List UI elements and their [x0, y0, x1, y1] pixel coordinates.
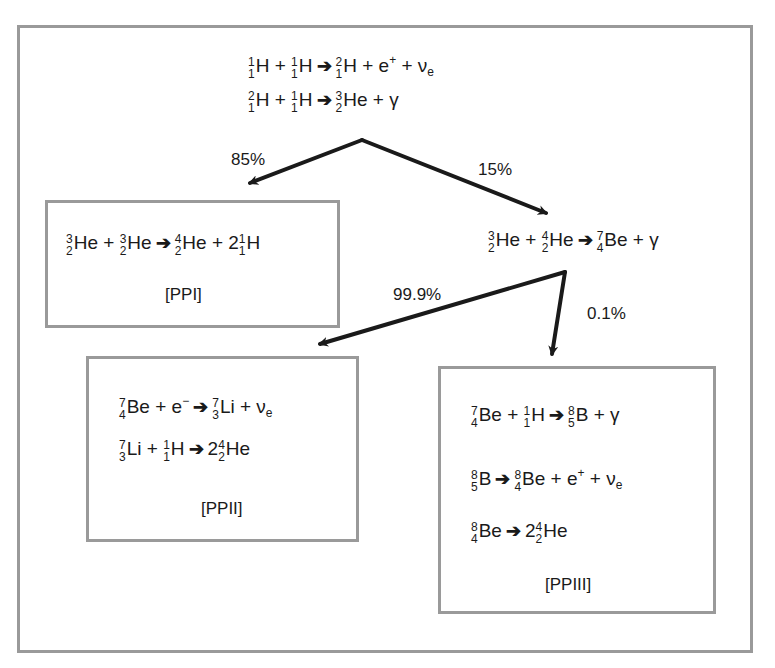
nuclide: 242He	[525, 519, 568, 544]
isotope-numbers: 85	[568, 405, 575, 429]
nuclide: 84Be	[471, 519, 502, 544]
element-symbol: H	[256, 54, 270, 78]
nuclide: 11H	[524, 403, 545, 428]
operator: +	[502, 404, 524, 425]
operator: +	[396, 55, 418, 76]
arrow-to-ppi	[250, 140, 362, 183]
particle: e+	[379, 55, 397, 76]
isotope-numbers: 42	[536, 521, 543, 545]
arrow-to-ppii	[320, 272, 565, 344]
element-symbol: Be	[127, 395, 150, 419]
atomic-number: 2	[66, 245, 73, 257]
nuclide: 11H	[291, 88, 312, 113]
isotope-numbers: 11	[291, 90, 298, 114]
atomic-number: 4	[119, 409, 126, 421]
reaction-arrow-icon: ➔	[506, 519, 521, 543]
ppi-reaction-1: 32He + 32He➔42He + 211H	[66, 231, 260, 256]
operator: +	[269, 89, 291, 110]
nuclide: 74Be	[119, 395, 150, 420]
atomic-number: 2	[120, 245, 127, 257]
operator: +	[98, 232, 120, 253]
coefficient: 2	[525, 520, 536, 541]
nuclide: 74Be	[597, 228, 628, 253]
particle: e+	[567, 468, 585, 489]
ppii-reaction-1: 74Be + e−➔73Li + νe	[119, 389, 273, 425]
charge: +	[578, 466, 585, 480]
ppiii-label: [PPIII]	[545, 575, 591, 595]
operator: +	[141, 438, 163, 459]
isotope-numbers: 84	[514, 469, 521, 493]
reaction-arrow-icon: ➔	[156, 231, 171, 255]
element-symbol: H	[531, 403, 545, 427]
branch-label-0-1: 0.1%	[587, 304, 626, 324]
element-symbol: Li	[127, 437, 142, 461]
element-symbol: H	[299, 54, 313, 78]
reaction-arrow-icon: ➔	[549, 403, 564, 427]
element-symbol: Be	[522, 467, 545, 491]
isotope-numbers: 21	[248, 90, 255, 114]
operator: +	[520, 229, 542, 250]
nuclide: 11H	[291, 54, 312, 79]
isotope-numbers: 84	[471, 521, 478, 545]
ppi-label: [PPI]	[165, 285, 202, 305]
nuclide: 73Li	[119, 437, 141, 462]
nuclide: 211H	[228, 231, 260, 256]
nuclide: 42He	[542, 228, 574, 253]
isotope-numbers: 21	[336, 56, 343, 80]
element-symbol: He	[127, 231, 151, 255]
atomic-number: 4	[471, 417, 478, 429]
particle: νe	[606, 468, 622, 489]
atomic-number: 5	[471, 481, 478, 493]
nuclide: 11H	[248, 54, 269, 79]
isotope-numbers: 11	[248, 56, 255, 80]
isotope-numbers: 32	[488, 230, 495, 254]
nuclide: 85B	[568, 403, 588, 428]
operator: +	[585, 468, 607, 489]
atomic-number: 1	[163, 451, 170, 463]
element-symbol: He	[226, 437, 250, 461]
atomic-number: 4	[597, 242, 604, 254]
nuclide: 21H	[336, 54, 357, 79]
isotope-numbers: 11	[291, 56, 298, 80]
atomic-number: 2	[542, 242, 549, 254]
flavor: e	[266, 406, 273, 420]
nuclide: 32He	[336, 88, 368, 113]
atomic-number: 1	[291, 102, 298, 114]
element-symbol: B	[576, 403, 589, 427]
reaction-top-1: 11H + 11H➔21H + e+ + νe	[248, 48, 434, 84]
nuclide: 32He	[66, 231, 98, 256]
ppi-box: 32He + 32He➔42He + 211H [PPI]	[45, 200, 340, 328]
element-symbol: He	[543, 519, 567, 543]
element-symbol: He	[343, 88, 367, 112]
reaction-arrow-icon: ➔	[495, 467, 510, 491]
atomic-number: 2	[218, 451, 225, 463]
atomic-number: 1	[248, 68, 255, 80]
reaction-arrow-icon: ➔	[193, 395, 208, 419]
branch-label-15: 15%	[478, 160, 512, 180]
isotope-numbers: 32	[336, 90, 343, 114]
nuclide: 32He	[488, 228, 520, 253]
nuclide: 32He	[120, 231, 152, 256]
operator: +	[628, 229, 650, 250]
operator: +	[207, 232, 229, 253]
element-symbol: He	[74, 231, 98, 255]
particle: νe	[418, 55, 434, 76]
reaction-top-2: 21H + 11H➔32He + γ	[248, 88, 399, 113]
element-symbol: H	[171, 437, 185, 461]
isotope-numbers: 74	[119, 397, 126, 421]
atomic-number: 1	[524, 417, 531, 429]
nuclide: 42He	[175, 231, 207, 256]
flavor: e	[616, 478, 623, 492]
atomic-number: 2	[488, 242, 495, 254]
isotope-numbers: 11	[239, 233, 246, 257]
atomic-number: 1	[336, 68, 343, 80]
ppii-reaction-2: 73Li + 11H➔242He	[119, 437, 250, 462]
particle: νe	[256, 396, 272, 417]
operator: +	[357, 55, 379, 76]
particle: γ	[610, 404, 620, 425]
atomic-number: 1	[239, 245, 246, 257]
operator: +	[150, 396, 172, 417]
element-symbol: He	[496, 228, 520, 252]
atomic-number: 4	[471, 533, 478, 545]
element-symbol: Li	[220, 395, 235, 419]
